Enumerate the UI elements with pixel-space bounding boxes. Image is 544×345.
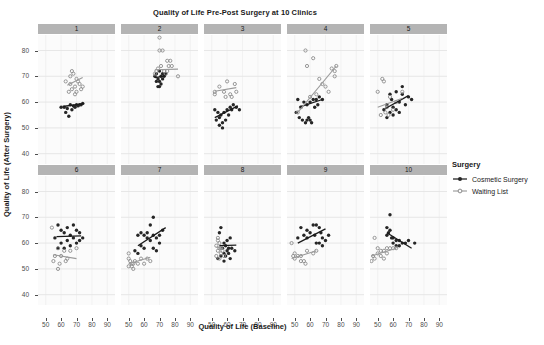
facet-label: 7 (158, 167, 162, 174)
legend-key-icon (452, 186, 468, 196)
facet-strip-6: 6 (38, 165, 115, 175)
y-axis-ticks: 40506070804050607080 (0, 0, 36, 345)
plot-area-5 (370, 35, 447, 164)
facet-label: 9 (324, 167, 328, 174)
facet-panel-6: 6 (38, 165, 115, 305)
facet-panel-2: 2 (121, 24, 198, 164)
plot-area-2 (121, 35, 198, 164)
plot-area-4 (287, 35, 364, 164)
plot-area-8 (204, 176, 281, 305)
y-tick-label: 60 (22, 239, 29, 246)
legend-item-label: Cosmetic Surgery (472, 176, 528, 183)
facet-strip-1: 1 (38, 24, 115, 34)
plot-area-3 (204, 35, 281, 164)
facet-label: 6 (75, 167, 79, 174)
legend-item[interactable]: Waiting List (452, 185, 544, 197)
facet-label: 4 (324, 26, 328, 33)
y-tick-label: 70 (22, 213, 29, 220)
facet-panel-7: 7 (121, 165, 198, 305)
facet-strip-2: 2 (121, 24, 198, 34)
facet-label: 10 (405, 167, 412, 174)
y-tick-label: 60 (22, 98, 29, 105)
facet-row: 678910 (38, 165, 447, 305)
facet-label: 3 (241, 26, 245, 33)
chart-root: Quality of Life Pre-Post Surgery at 10 C… (0, 0, 544, 345)
plot-area-1 (38, 35, 115, 164)
facet-strip-5: 5 (370, 24, 447, 34)
legend-items: Cosmetic SurgeryWaiting List (452, 173, 544, 197)
facet-label: 5 (407, 26, 411, 33)
facet-panel-4: 4 (287, 24, 364, 164)
facet-panel-8: 8 (204, 165, 281, 305)
chart-title: Quality of Life Pre-Post Surgery at 10 C… (0, 8, 470, 17)
facet-panel-3: 3 (204, 24, 281, 164)
y-tick-label: 40 (22, 150, 29, 157)
y-tick-label: 50 (22, 265, 29, 272)
facet-label: 8 (241, 167, 245, 174)
y-tick-label: 80 (22, 188, 29, 195)
facet-strip-8: 8 (204, 165, 281, 175)
y-tick-label: 80 (22, 47, 29, 54)
facet-panel-5: 5 (370, 24, 447, 164)
facet-strip-7: 7 (121, 165, 198, 175)
x-axis-label: Quality of Life (Baseline) (38, 322, 447, 331)
plot-area-9 (287, 176, 364, 305)
facet-label: 2 (158, 26, 162, 33)
facet-panel-9: 9 (287, 165, 364, 305)
plot-area-7 (121, 176, 198, 305)
plot-area-10 (370, 176, 447, 305)
facet-row: 12345 (38, 24, 447, 164)
facet-label: 1 (75, 26, 79, 33)
y-tick-label: 50 (22, 124, 29, 131)
facet-grid: 12345678910 (38, 24, 447, 318)
facet-panel-10: 10 (370, 165, 447, 305)
y-tick-label: 70 (22, 72, 29, 79)
legend-item-label: Waiting List (472, 188, 508, 195)
legend-key-icon (452, 174, 468, 184)
facet-strip-9: 9 (287, 165, 364, 175)
legend: Surgery Cosmetic SurgeryWaiting List (452, 160, 544, 197)
facet-strip-4: 4 (287, 24, 364, 34)
y-tick-label: 40 (22, 291, 29, 298)
legend-item[interactable]: Cosmetic Surgery (452, 173, 544, 185)
facet-strip-10: 10 (370, 165, 447, 175)
page-caption (0, 335, 544, 345)
plot-area-6 (38, 176, 115, 305)
legend-title: Surgery (452, 160, 544, 169)
facet-strip-3: 3 (204, 24, 281, 34)
facet-panel-1: 1 (38, 24, 115, 164)
